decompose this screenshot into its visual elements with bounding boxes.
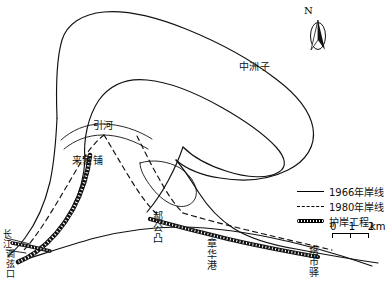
map-label-zhanghuagang: 章华港 xyxy=(205,238,215,271)
map-label-yinhe: 引河 xyxy=(93,121,114,132)
legend-key-revetment-band xyxy=(296,215,326,229)
shoreline-1980-west-limb xyxy=(22,135,104,252)
shoreline-1980-cutoff-north xyxy=(104,135,159,216)
shoreline-1980-cutoff-south xyxy=(137,136,183,213)
neck-connector-1966 xyxy=(147,147,183,212)
channel-west-outer-bank xyxy=(8,118,57,256)
legend-item-shoreline-1980: 1980年岸线 xyxy=(296,199,384,214)
legend-label-shoreline-1980: 1980年岸线 xyxy=(326,199,384,214)
map-label-laijiapu: 来家铺 xyxy=(72,156,103,167)
map-scale-bar: 0 1 2 km xyxy=(330,221,382,239)
map-label-tashiyi: 塔市驿 xyxy=(307,245,317,278)
shoreline-1966-inner-bank xyxy=(85,80,285,177)
scale-bar-graphic xyxy=(330,233,370,239)
legend-label-shoreline-1966: 1966年岸线 xyxy=(326,184,384,199)
diversion-channel-lower xyxy=(64,135,148,149)
map-label-changjiang: 长江 xyxy=(2,229,11,249)
scale-tick-mark-2 xyxy=(368,233,369,238)
legend-item-shoreline-1966: 1966年岸线 xyxy=(296,184,384,199)
compass-north-label: N xyxy=(304,5,313,16)
map-label-haogongtu: 郝公凸 xyxy=(151,211,161,244)
map-label-zhongzhouzi: 中洲子 xyxy=(239,62,270,73)
compass-rose: N xyxy=(300,6,334,58)
legend-key-dashed-line xyxy=(296,200,326,214)
scale-tick-mark-0 xyxy=(332,233,333,238)
map-label-tiaoxiankou: 调弦口 xyxy=(5,249,14,279)
scale-tick-mark-1 xyxy=(350,233,351,238)
scale-tick-1: 1 xyxy=(349,221,355,232)
legend-key-solid-line xyxy=(296,185,326,199)
scale-tick-0: 0 xyxy=(330,221,336,232)
revetment-band-east xyxy=(150,219,318,257)
scale-tick-labels: 0 1 2 xyxy=(330,221,374,232)
scale-unit-label: km xyxy=(370,221,386,232)
